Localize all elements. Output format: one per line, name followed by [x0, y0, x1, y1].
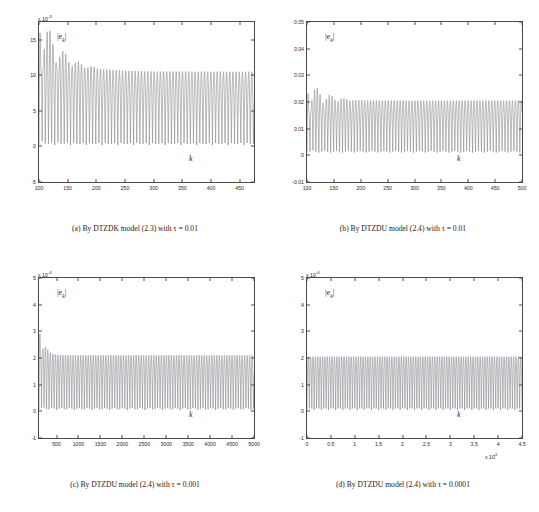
- panel-a-axes: |ek| k 151050-5100150200250300350400450: [38, 21, 255, 183]
- panel-d-ytick-label: 0: [301, 408, 304, 414]
- panel-c-xtick-mark: [210, 278, 211, 281]
- panel-c-ytick-label: 5: [33, 275, 36, 281]
- panel-d-ytick-mark: [307, 384, 310, 385]
- panel-c-ytick-mark: [39, 278, 42, 279]
- panel-b-xtick-label: 250: [383, 185, 392, 191]
- panel-c-ytick-mark: [39, 331, 42, 332]
- panel-a-xtick-mark: [239, 22, 240, 25]
- panel-b-axes: |ek| k 0.050.040.030.020.010-0.011001502…: [306, 21, 523, 183]
- panel-a-xtick-label: 300: [149, 185, 158, 191]
- panel-d-xtick-label: 1.5: [375, 441, 382, 447]
- panel-a-xlabel: k: [189, 154, 193, 163]
- panel-b-xtick-label: 400: [464, 185, 473, 191]
- panel-c-ytick-mark: [251, 304, 254, 305]
- panel-b-xtick-label: 150: [330, 185, 339, 191]
- panel-a-xtick-mark: [96, 22, 97, 25]
- panel-c-xtick-mark: [232, 278, 233, 281]
- panel-b-xtick-mark: [441, 22, 442, 25]
- panel-d-x-exponent: x 104: [485, 452, 497, 460]
- panel-c: x 10-4 |ek| k 543210-1500100015002000250…: [4, 258, 266, 510]
- panel-c-xtick-mark: [232, 435, 233, 438]
- panel-a-xtick-mark: [153, 22, 154, 25]
- panel-c-xtick-mark: [254, 435, 255, 438]
- panel-c-ytick-label: 3: [33, 328, 36, 334]
- panel-d-canvas: [307, 278, 522, 438]
- panel-c-caption: (c) By DTZDU model (2.4) with τ = 0.001: [4, 480, 266, 489]
- panel-c-ytick-mark: [251, 384, 254, 385]
- panel-a-ytick-mark: [39, 75, 42, 76]
- panel-d-xtick-mark: [307, 278, 308, 281]
- panel-c-xtick-mark: [210, 435, 211, 438]
- panel-b-ytick-mark: [307, 102, 310, 103]
- panel-b-xtick-mark: [360, 22, 361, 25]
- panel-d-xtick-mark: [354, 435, 355, 438]
- panel-d-ytick-mark: [307, 358, 310, 359]
- panel-c-xtick-mark: [56, 435, 57, 438]
- panel-c-ytick-label: 0: [33, 408, 36, 414]
- panel-b-xtick-mark: [414, 22, 415, 25]
- panel-d-xtick-label: 3.5: [471, 441, 478, 447]
- panel-d-ytick-label: -1: [299, 435, 304, 441]
- panel-c-xtick-mark: [144, 278, 145, 281]
- panel-d-ytick-label: 4: [301, 302, 304, 308]
- panel-d-xtick-label: 4.5: [518, 441, 525, 447]
- panel-b-ytick-mark: [519, 155, 522, 156]
- panel-a-ytick-mark: [39, 110, 42, 111]
- panel-b-xtick-mark: [387, 179, 388, 182]
- panel-b-ytick-label: 0.04: [294, 46, 304, 52]
- panel-b-xtick-mark: [307, 179, 308, 182]
- panel-c-axes: |ek| k 543210-15001000150020002500300035…: [38, 277, 255, 439]
- panel-b-xtick-mark: [495, 179, 496, 182]
- panel-d-caption: (d) By DTZDU model (2.4) with τ = 0.0001: [272, 480, 534, 489]
- panel-d-xtick-mark: [426, 278, 427, 281]
- panel-a-ytick-mark: [251, 75, 254, 76]
- panel-d-xtick-mark: [450, 435, 451, 438]
- panel-d-xlabel: k: [457, 410, 461, 419]
- panel-a-xtick-label: 100: [35, 185, 44, 191]
- panel-d-xtick-mark: [402, 435, 403, 438]
- panel-d-xtick-label: 1: [353, 441, 356, 447]
- panel-b-ytick-label: 0.05: [294, 19, 304, 25]
- panel-a-xtick-mark: [39, 22, 40, 25]
- panel-b-ylabel: |ek|: [325, 32, 334, 43]
- panel-b-xtick-label: 450: [491, 185, 500, 191]
- panel-b-ytick-mark: [307, 48, 310, 49]
- panel-c-xtick-label: 4500: [226, 441, 238, 447]
- panel-b: |ek| k 0.050.040.030.020.010-0.011001502…: [272, 2, 534, 254]
- panel-d-xtick-mark: [498, 278, 499, 281]
- panel-c-xtick-mark: [188, 435, 189, 438]
- panel-d-xtick-mark: [378, 278, 379, 281]
- panel-b-xtick-mark: [333, 179, 334, 182]
- panel-a-xtick-mark: [96, 179, 97, 182]
- panel-d-ytick-mark: [519, 331, 522, 332]
- panel-a: x 10-3 |ek| k 151050-5100150200250300350…: [4, 2, 266, 254]
- panel-c-ytick-mark: [251, 411, 254, 412]
- panel-d-ytick-mark: [519, 411, 522, 412]
- panel-d-ytick-label: 5: [301, 275, 304, 281]
- panel-b-xtick-label: 100: [303, 185, 312, 191]
- panel-a-ytick-label: 0: [33, 143, 36, 149]
- panel-b-xtick-label: 300: [410, 185, 419, 191]
- panel-d-axes: |ek| k 543210-100.511.522.533.544.5: [306, 277, 523, 439]
- panel-d: x 10-6 x 104 |ek| k 543210-100.511.522.5…: [272, 258, 534, 510]
- panel-c-xtick-mark: [144, 435, 145, 438]
- panel-a-xtick-mark: [211, 22, 212, 25]
- panel-c-xtick-label: 3000: [160, 441, 172, 447]
- panel-b-ytick-mark: [519, 48, 522, 49]
- panel-b-xlabel: k: [457, 154, 461, 163]
- panel-a-xtick-mark: [239, 179, 240, 182]
- panel-d-ytick-mark: [307, 304, 310, 305]
- panel-b-xtick-mark: [441, 179, 442, 182]
- panel-d-xtick-mark: [402, 278, 403, 281]
- panel-c-xtick-mark: [166, 435, 167, 438]
- panel-b-caption: (b) By DTZDU model (2.4) with τ = 0.01: [272, 224, 534, 233]
- panel-a-xtick-mark: [182, 22, 183, 25]
- panel-b-xtick-mark: [522, 179, 523, 182]
- panel-c-ytick-label: -1: [31, 435, 36, 441]
- figure-page: x 10-3 |ek| k 151050-5100150200250300350…: [0, 0, 539, 512]
- panel-d-xtick-label: 2.5: [423, 441, 430, 447]
- panel-c-xtick-mark: [78, 278, 79, 281]
- panel-c-xtick-mark: [78, 435, 79, 438]
- panel-c-ytick-mark: [39, 411, 42, 412]
- panel-b-xtick-mark: [468, 22, 469, 25]
